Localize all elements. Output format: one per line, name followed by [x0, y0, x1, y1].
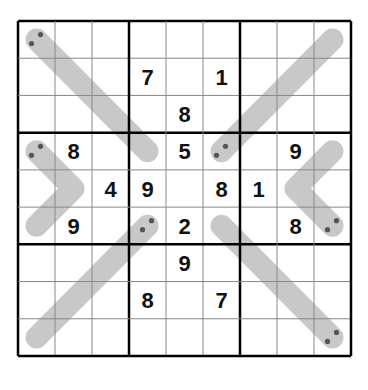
- sudoku-cell-r1c6[interactable]: [203, 21, 240, 58]
- sudoku-cell-r3c4[interactable]: [129, 95, 166, 132]
- sudoku-cell-r9c9[interactable]: [314, 319, 351, 356]
- sudoku-cell-r2c2[interactable]: [55, 58, 92, 95]
- given-digit: 9: [289, 139, 301, 164]
- sudoku-cell-r6c7[interactable]: [240, 207, 277, 244]
- given-digit: 8: [67, 139, 79, 164]
- sudoku-cell-r6c9[interactable]: [314, 207, 351, 244]
- sudoku-cell-r8c5[interactable]: [166, 282, 203, 319]
- sudoku-cell-r9c7[interactable]: [240, 319, 277, 356]
- sudoku-cell-r3c9[interactable]: [314, 95, 351, 132]
- sudoku-cell-r6c4[interactable]: [129, 207, 166, 244]
- sudoku-cell-r2c9[interactable]: [314, 58, 351, 95]
- sudoku-cell-r5c1[interactable]: [18, 170, 55, 207]
- sudoku-cell-r7c8[interactable]: [277, 244, 314, 281]
- given-digit: 8: [178, 102, 190, 127]
- sudoku-cell-r4c4[interactable]: [129, 133, 166, 170]
- sudoku-cell-r4c7[interactable]: [240, 133, 277, 170]
- sudoku-cell-r8c2[interactable]: [55, 282, 92, 319]
- given-digit: 8: [141, 288, 153, 313]
- sudoku-cell-r4c1[interactable]: [18, 133, 55, 170]
- given-digit: 4: [104, 177, 117, 202]
- given-digit: 7: [141, 65, 153, 90]
- sudoku-cell-r7c9[interactable]: [314, 244, 351, 281]
- sudoku-cell-r1c7[interactable]: [240, 21, 277, 58]
- sudoku-cell-r8c1[interactable]: [18, 282, 55, 319]
- sudoku-cell-r9c6[interactable]: [203, 319, 240, 356]
- given-digit: 9: [67, 214, 79, 239]
- sudoku-cell-r7c3[interactable]: [92, 244, 129, 281]
- sudoku-cell-r9c4[interactable]: [129, 319, 166, 356]
- sudoku-cell-r1c8[interactable]: [277, 21, 314, 58]
- sudoku-cell-r5c2[interactable]: [55, 170, 92, 207]
- sudoku-cell-r7c6[interactable]: [203, 244, 240, 281]
- sudoku-cell-r7c7[interactable]: [240, 244, 277, 281]
- sudoku-cell-r2c8[interactable]: [277, 58, 314, 95]
- given-digit: 9: [141, 177, 153, 202]
- sudoku-cell-r9c1[interactable]: [18, 319, 55, 356]
- given-digit: 9: [178, 251, 190, 276]
- sudoku-cell-r1c4[interactable]: [129, 21, 166, 58]
- given-digit: 7: [215, 288, 227, 313]
- given-digit: 1: [215, 65, 227, 90]
- sudoku-cell-r8c7[interactable]: [240, 282, 277, 319]
- given-digit: 5: [178, 139, 190, 164]
- sudoku-cell-r3c8[interactable]: [277, 95, 314, 132]
- sudoku-cell-r3c3[interactable]: [92, 95, 129, 132]
- sudoku-cell-r5c8[interactable]: [277, 170, 314, 207]
- sudoku-cell-r4c9[interactable]: [314, 133, 351, 170]
- sudoku-cell-r9c5[interactable]: [166, 319, 203, 356]
- given-digit: 1: [252, 177, 264, 202]
- sudoku-cell-r9c3[interactable]: [92, 319, 129, 356]
- sudoku-cell-r4c3[interactable]: [92, 133, 129, 170]
- sudoku-cell-r3c6[interactable]: [203, 95, 240, 132]
- sudoku-cell-r3c2[interactable]: [55, 95, 92, 132]
- sudoku-cell-r8c8[interactable]: [277, 282, 314, 319]
- sudoku-cell-r6c3[interactable]: [92, 207, 129, 244]
- sudoku-cell-r1c9[interactable]: [314, 21, 351, 58]
- cells-layer: 7188594981928987: [18, 21, 351, 356]
- sudoku-cell-r1c5[interactable]: [166, 21, 203, 58]
- sudoku-cell-r1c1[interactable]: [18, 21, 55, 58]
- sudoku-cell-r6c6[interactable]: [203, 207, 240, 244]
- sudoku-cell-r3c7[interactable]: [240, 95, 277, 132]
- sudoku-cell-r6c1[interactable]: [18, 207, 55, 244]
- sudoku-cell-r7c2[interactable]: [55, 244, 92, 281]
- given-digit: 8: [215, 177, 227, 202]
- sudoku-cell-r7c4[interactable]: [129, 244, 166, 281]
- sudoku-cell-r3c1[interactable]: [18, 95, 55, 132]
- sudoku-cell-r2c7[interactable]: [240, 58, 277, 95]
- sudoku-cell-r2c5[interactable]: [166, 58, 203, 95]
- sudoku-cell-r8c3[interactable]: [92, 282, 129, 319]
- sudoku-cell-r1c2[interactable]: [55, 21, 92, 58]
- sudoku-board: 7188594981928987: [0, 0, 368, 390]
- sudoku-cell-r4c6[interactable]: [203, 133, 240, 170]
- given-digit: 2: [178, 214, 190, 239]
- sudoku-cell-r2c1[interactable]: [18, 58, 55, 95]
- sudoku-cell-r9c8[interactable]: [277, 319, 314, 356]
- sudoku-cell-r5c5[interactable]: [166, 170, 203, 207]
- given-digit: 8: [289, 214, 301, 239]
- sudoku-cell-r9c2[interactable]: [55, 319, 92, 356]
- sudoku-cell-r7c1[interactable]: [18, 244, 55, 281]
- sudoku-cell-r5c9[interactable]: [314, 170, 351, 207]
- sudoku-cell-r1c3[interactable]: [92, 21, 129, 58]
- sudoku-cell-r2c3[interactable]: [92, 58, 129, 95]
- sudoku-cell-r8c9[interactable]: [314, 282, 351, 319]
